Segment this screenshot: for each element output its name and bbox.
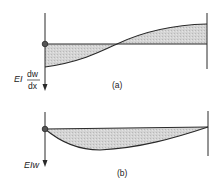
pin-support-icon [42,126,48,132]
caption-a: (a) [112,80,123,90]
pin-support-icon [42,41,48,47]
axis-label-eiw: EIw [24,160,40,170]
axis-label-dx: dx [28,81,38,91]
axis-label-dw: dw [27,69,39,79]
caption-b: (b) [117,168,128,178]
slope-area-positive [117,24,207,44]
panel-b: EIw (b) [24,111,208,178]
axis-label-ei: EI [14,74,23,84]
panel-a: EI dw dx (a) [14,13,207,91]
arrow-down-icon [43,84,48,91]
beam-diagram: EI dw dx (a) EIw (b) [0,0,221,188]
deflection-area [45,127,208,150]
arrow-down-icon [43,160,48,167]
slope-area-negative [45,44,117,67]
